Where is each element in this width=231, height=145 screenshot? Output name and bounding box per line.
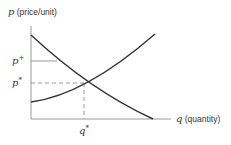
x-axis-unit: (quantity) [185, 114, 220, 124]
x-axis-var: q [176, 113, 182, 124]
y-axis-label: p (price/unit) [8, 6, 57, 17]
y-axis-var: p [8, 6, 14, 17]
q-star-label: q* [79, 124, 89, 136]
x-axis-label: q (quantity) [176, 113, 220, 124]
y-axis-unit: (price/unit) [17, 7, 57, 17]
p-plus-sup: + [18, 54, 24, 62]
supply-curve [31, 34, 155, 102]
demand-curve [31, 35, 153, 119]
supply-demand-diagram: p (price/unit) q (quantity) p+ p* q* [0, 0, 231, 145]
p-plus-label: p+ [12, 54, 24, 66]
p-star-sup: * [18, 76, 22, 84]
p-star-label: p* [12, 76, 22, 88]
q-star-sup: * [85, 124, 89, 132]
